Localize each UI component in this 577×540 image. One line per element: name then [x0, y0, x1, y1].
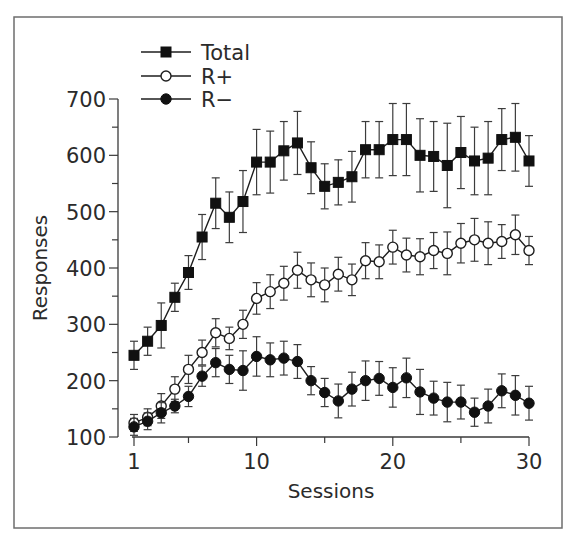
- data-point: [224, 333, 234, 343]
- data-point: [238, 319, 248, 329]
- data-point: [211, 357, 221, 367]
- data-point: [388, 382, 398, 392]
- data-point: [142, 416, 152, 426]
- data-point: [306, 275, 316, 285]
- data-point: [415, 387, 425, 397]
- y-tick-label: 700: [66, 88, 106, 112]
- data-point: [470, 235, 480, 245]
- data-point: [347, 384, 357, 394]
- legend-marker: [161, 47, 171, 57]
- y-tick-label: 400: [66, 257, 106, 281]
- data-point: [197, 348, 207, 358]
- data-point: [292, 138, 302, 148]
- data-point: [320, 181, 330, 191]
- x-tick-label: 1: [127, 450, 140, 474]
- data-point: [143, 336, 153, 346]
- data-point: [429, 246, 439, 256]
- data-point: [510, 230, 520, 240]
- legend-label: R−: [201, 88, 233, 112]
- data-point: [415, 252, 425, 262]
- y-tick-label: 500: [66, 201, 106, 225]
- data-point: [211, 328, 221, 338]
- data-point: [388, 242, 398, 252]
- data-point: [524, 246, 534, 256]
- data-point: [129, 350, 139, 360]
- data-point: [306, 375, 316, 385]
- y-axis: 100200300400500600700: [66, 88, 118, 450]
- data-point: [238, 365, 248, 375]
- chart: 100200300400500600700 1102030 Responses …: [0, 0, 577, 540]
- data-point: [224, 212, 234, 222]
- data-point: [238, 197, 248, 207]
- data-point: [483, 153, 493, 163]
- data-point: [401, 373, 411, 383]
- data-point: [388, 135, 398, 145]
- data-point: [224, 364, 234, 374]
- legend-label: Total: [200, 41, 250, 65]
- data-point: [360, 375, 370, 385]
- x-axis: 1102030: [127, 437, 542, 474]
- data-point: [374, 145, 384, 155]
- data-point: [361, 256, 371, 266]
- x-tick-label: 20: [379, 450, 406, 474]
- data-point: [292, 356, 302, 366]
- data-point: [401, 250, 411, 260]
- data-point: [319, 387, 329, 397]
- data-point: [197, 371, 207, 381]
- data-point: [306, 163, 316, 173]
- data-point: [279, 146, 289, 156]
- data-point: [429, 151, 439, 161]
- data-point: [524, 398, 534, 408]
- data-point: [183, 391, 193, 401]
- data-point: [456, 397, 466, 407]
- data-point: [497, 237, 507, 247]
- x-tick-label: 10: [243, 450, 270, 474]
- data-point: [170, 401, 180, 411]
- data-point: [156, 320, 166, 330]
- legend-item-rplus: R+: [141, 65, 233, 89]
- data-point: [374, 257, 384, 267]
- data-point: [183, 364, 193, 374]
- x-tick-label: 30: [516, 450, 543, 474]
- legend-label: R+: [201, 65, 233, 89]
- data-point: [442, 160, 452, 170]
- data-point: [156, 408, 166, 418]
- data-point: [333, 396, 343, 406]
- data-point: [510, 390, 520, 400]
- legend-item-rminus: R−: [141, 88, 233, 112]
- data-point: [265, 287, 275, 297]
- y-tick-label: 200: [66, 370, 106, 394]
- data-point: [211, 198, 221, 208]
- series-line: [134, 137, 529, 355]
- data-point: [442, 397, 452, 407]
- data-point: [497, 386, 507, 396]
- data-point: [470, 156, 480, 166]
- data-point: [401, 135, 411, 145]
- data-point: [347, 172, 357, 182]
- data-point: [456, 148, 466, 158]
- legend-item-total: Total: [141, 41, 250, 65]
- y-tick-label: 600: [66, 144, 106, 168]
- x-axis-label: Sessions: [288, 479, 375, 503]
- legend-marker: [161, 94, 171, 104]
- data-point: [483, 238, 493, 248]
- y-axis-label: Responses: [28, 215, 52, 321]
- data-point: [442, 248, 452, 258]
- data-point: [428, 393, 438, 403]
- data-point: [265, 157, 275, 167]
- data-point: [252, 293, 262, 303]
- legend: TotalR+R−: [141, 41, 250, 112]
- data-point: [333, 269, 343, 279]
- data-point: [347, 275, 357, 285]
- data-point: [374, 373, 384, 383]
- data-point: [361, 145, 371, 155]
- data-point: [483, 401, 493, 411]
- data-point: [183, 268, 193, 278]
- data-point: [265, 355, 275, 365]
- series-layer: [129, 104, 534, 436]
- data-point: [170, 292, 180, 302]
- data-point: [252, 157, 262, 167]
- data-point: [469, 407, 479, 417]
- legend-marker: [161, 71, 171, 81]
- data-point: [279, 278, 289, 288]
